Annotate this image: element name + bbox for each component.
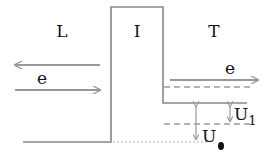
- electron-label-right: e: [225, 58, 235, 78]
- electron-label-left: e: [37, 68, 47, 88]
- region-label-right: T: [208, 21, 220, 41]
- u0-subscript-dot: [218, 142, 224, 150]
- tunneling-diagram: L I T e e U1 U: [0, 0, 272, 152]
- region-label-insulator: I: [134, 21, 141, 41]
- region-label-left: L: [56, 21, 67, 41]
- u0-label: U: [202, 126, 216, 146]
